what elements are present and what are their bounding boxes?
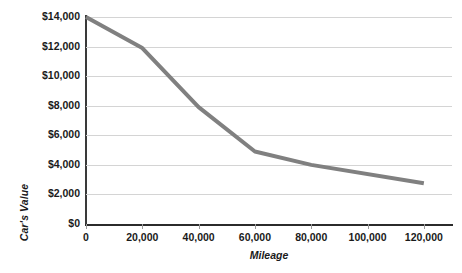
x-axis-line	[85, 224, 453, 226]
x-axis-tick-mark	[368, 224, 369, 229]
y-axis-tick-label: $14,000	[8, 11, 80, 22]
y-axis-tick-label: $12,000	[8, 41, 80, 52]
y-axis-tick-label: $6,000	[8, 129, 80, 140]
x-axis-tick-mark	[255, 224, 256, 229]
y-axis-tick-label: $8,000	[8, 100, 80, 111]
series-line-cars-value	[86, 17, 452, 224]
x-axis-tick-mark	[199, 224, 200, 229]
x-axis-tick-mark	[311, 224, 312, 229]
x-axis-tick-label: 120,000	[384, 231, 462, 243]
x-axis-tick-mark	[86, 224, 87, 229]
line-chart: Car's Value $0$2,000$4,000$6,000$8,000$1…	[0, 0, 462, 273]
y-axis-tick-label: $0	[8, 218, 80, 229]
x-axis-tick-mark	[142, 224, 143, 229]
y-axis-tick-label: $2,000	[8, 188, 80, 199]
plot-area	[86, 17, 452, 224]
y-axis-tick-label: $4,000	[8, 159, 80, 170]
x-axis-tick-mark	[424, 224, 425, 229]
y-axis-tick-label: $10,000	[8, 70, 80, 81]
x-axis-title: Mileage	[86, 249, 452, 261]
series-polyline	[86, 17, 424, 183]
